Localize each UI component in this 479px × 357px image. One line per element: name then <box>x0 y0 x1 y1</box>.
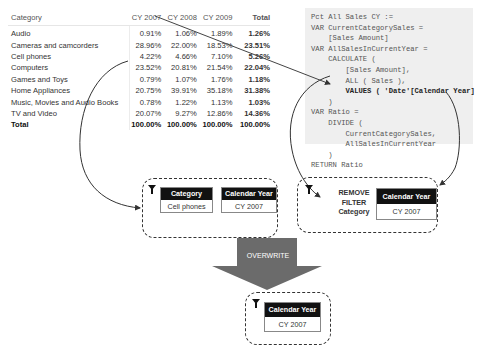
filter-calendar-year: Calendar Year CY 2007 <box>221 187 277 213</box>
filter-year-header: Calendar Year <box>222 188 276 200</box>
filter-year-value: CY 2007 <box>377 204 436 220</box>
filter-text: FILTER <box>330 198 378 208</box>
filter-year-header: Calendar Year <box>377 189 436 204</box>
filter-year-value: CY 2007 <box>265 317 320 332</box>
filter-category-header: Category <box>161 188 212 200</box>
arrow-cell-to-filter <box>80 61 140 208</box>
overwrite-arrow-shape <box>212 238 322 290</box>
filter-year-header: Calendar Year <box>265 303 320 317</box>
overwrite-label: OVERWRITE <box>228 252 308 259</box>
filter-calendar-year: Calendar Year CY 2007 <box>264 302 321 332</box>
remove-filter-label: REMOVE FILTER Category <box>330 188 378 217</box>
filter-category: Category Cell phones <box>160 187 213 213</box>
arrow-values-to-year <box>440 92 459 185</box>
filter-year-value: CY 2007 <box>222 200 276 213</box>
filter-funnel-icon <box>305 185 313 190</box>
filter-category-value: Cell phones <box>161 200 212 213</box>
figure-caption-cutoff <box>50 348 430 352</box>
filter-funnel-icon <box>148 185 156 190</box>
filter-funnel-icon <box>252 299 260 304</box>
arrow-header-to-values <box>155 16 330 84</box>
filter-calendar-year: Calendar Year CY 2007 <box>376 188 437 220</box>
category-text: Category <box>330 207 378 217</box>
remove-text: REMOVE <box>330 188 378 198</box>
